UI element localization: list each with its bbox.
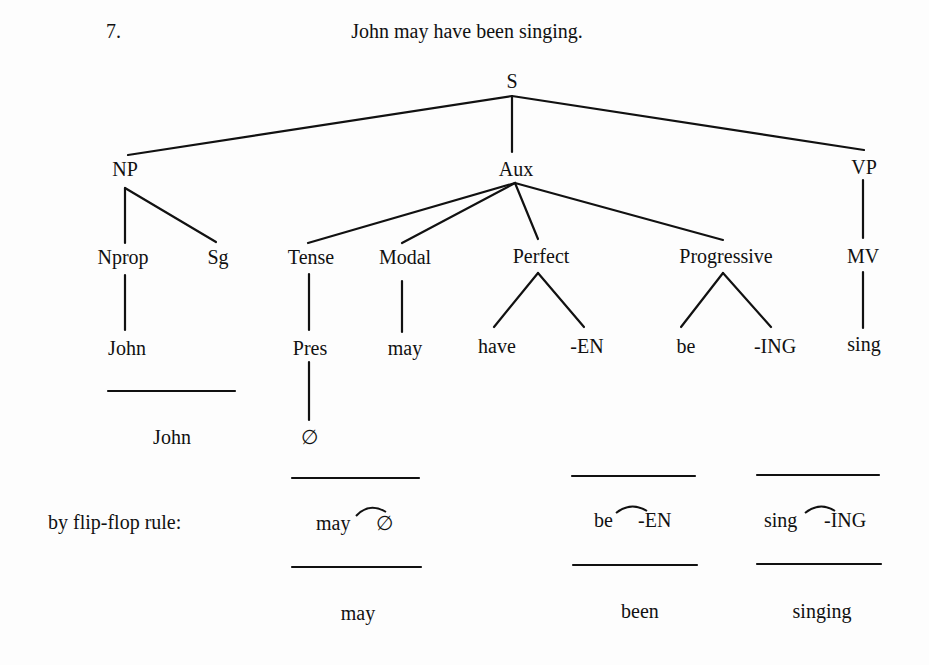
node-sg: Sg <box>207 246 228 268</box>
node-pres: Pres <box>293 337 327 359</box>
node-have: have <box>478 335 516 357</box>
flipflop-right-ing: -ING <box>824 509 866 531</box>
node-en: -EN <box>570 335 603 357</box>
node-perfect: Perfect <box>513 245 570 267</box>
node-sing: sing <box>847 333 880 355</box>
flipflop-label: by flip-flop rule: <box>48 511 181 533</box>
node-s: S <box>506 70 517 92</box>
flipflop-left-sing: sing <box>764 509 797 531</box>
node-ing: -ING <box>754 335 796 357</box>
node-mv: MV <box>847 245 879 267</box>
flipflop-result-may: may <box>341 602 375 624</box>
example-number: 7. <box>106 20 121 42</box>
node-progressive: Progressive <box>679 245 772 267</box>
flipflop-result-been: been <box>621 600 659 622</box>
node-zero: ∅ <box>301 426 318 448</box>
node-may: may <box>388 337 422 359</box>
node-tense: Tense <box>288 246 334 268</box>
flipflop-result-singing: singing <box>793 600 852 622</box>
node-john: John <box>108 337 146 359</box>
node-vp: VP <box>851 156 877 178</box>
flipflop-right-zero: ∅ <box>376 512 393 534</box>
node-nprop: Nprop <box>97 246 148 268</box>
syntax-tree-figure: 7. John may have been singing. S NP Aux … <box>0 0 929 665</box>
flipflop-left-be: be <box>594 509 613 531</box>
node-be: be <box>677 335 696 357</box>
node-aux: Aux <box>499 158 533 180</box>
flipflop-left-may: may <box>316 512 350 534</box>
tree-branches <box>0 0 929 665</box>
flipflop-right-en: -EN <box>638 509 671 531</box>
node-modal: Modal <box>379 246 431 268</box>
result-john: John <box>153 426 191 448</box>
node-np: NP <box>112 158 138 180</box>
example-sentence: John may have been singing. <box>351 20 583 42</box>
